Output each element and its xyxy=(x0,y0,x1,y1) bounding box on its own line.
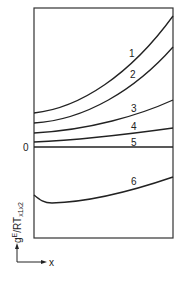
x-arrow-head-icon xyxy=(41,260,47,264)
curve-label-2: 2 xyxy=(130,69,136,80)
y-axis-label: gE/RTx1x2 xyxy=(11,202,24,243)
curve-label-6: 6 xyxy=(131,176,137,187)
zero-label: 0 xyxy=(23,142,29,153)
curve-1 xyxy=(34,16,173,113)
x-axis-label: x xyxy=(49,257,54,268)
curve-label-1: 1 xyxy=(129,48,135,59)
ylabel-mid: /RT xyxy=(12,217,23,233)
curve-4 xyxy=(34,128,173,142)
curve-6 xyxy=(34,177,173,203)
chart-svg: 1 2 3 4 5 6 0 gE/RTx1x2 x xyxy=(0,0,182,281)
curve-3 xyxy=(34,100,173,133)
curve-label-5: 5 xyxy=(131,137,137,148)
curve-label-4: 4 xyxy=(131,121,137,132)
svg-text:gE/RTx1x2: gE/RTx1x2 xyxy=(11,202,24,243)
curve-label-3: 3 xyxy=(131,103,137,114)
ylabel-sub: x1x2 xyxy=(17,202,24,217)
